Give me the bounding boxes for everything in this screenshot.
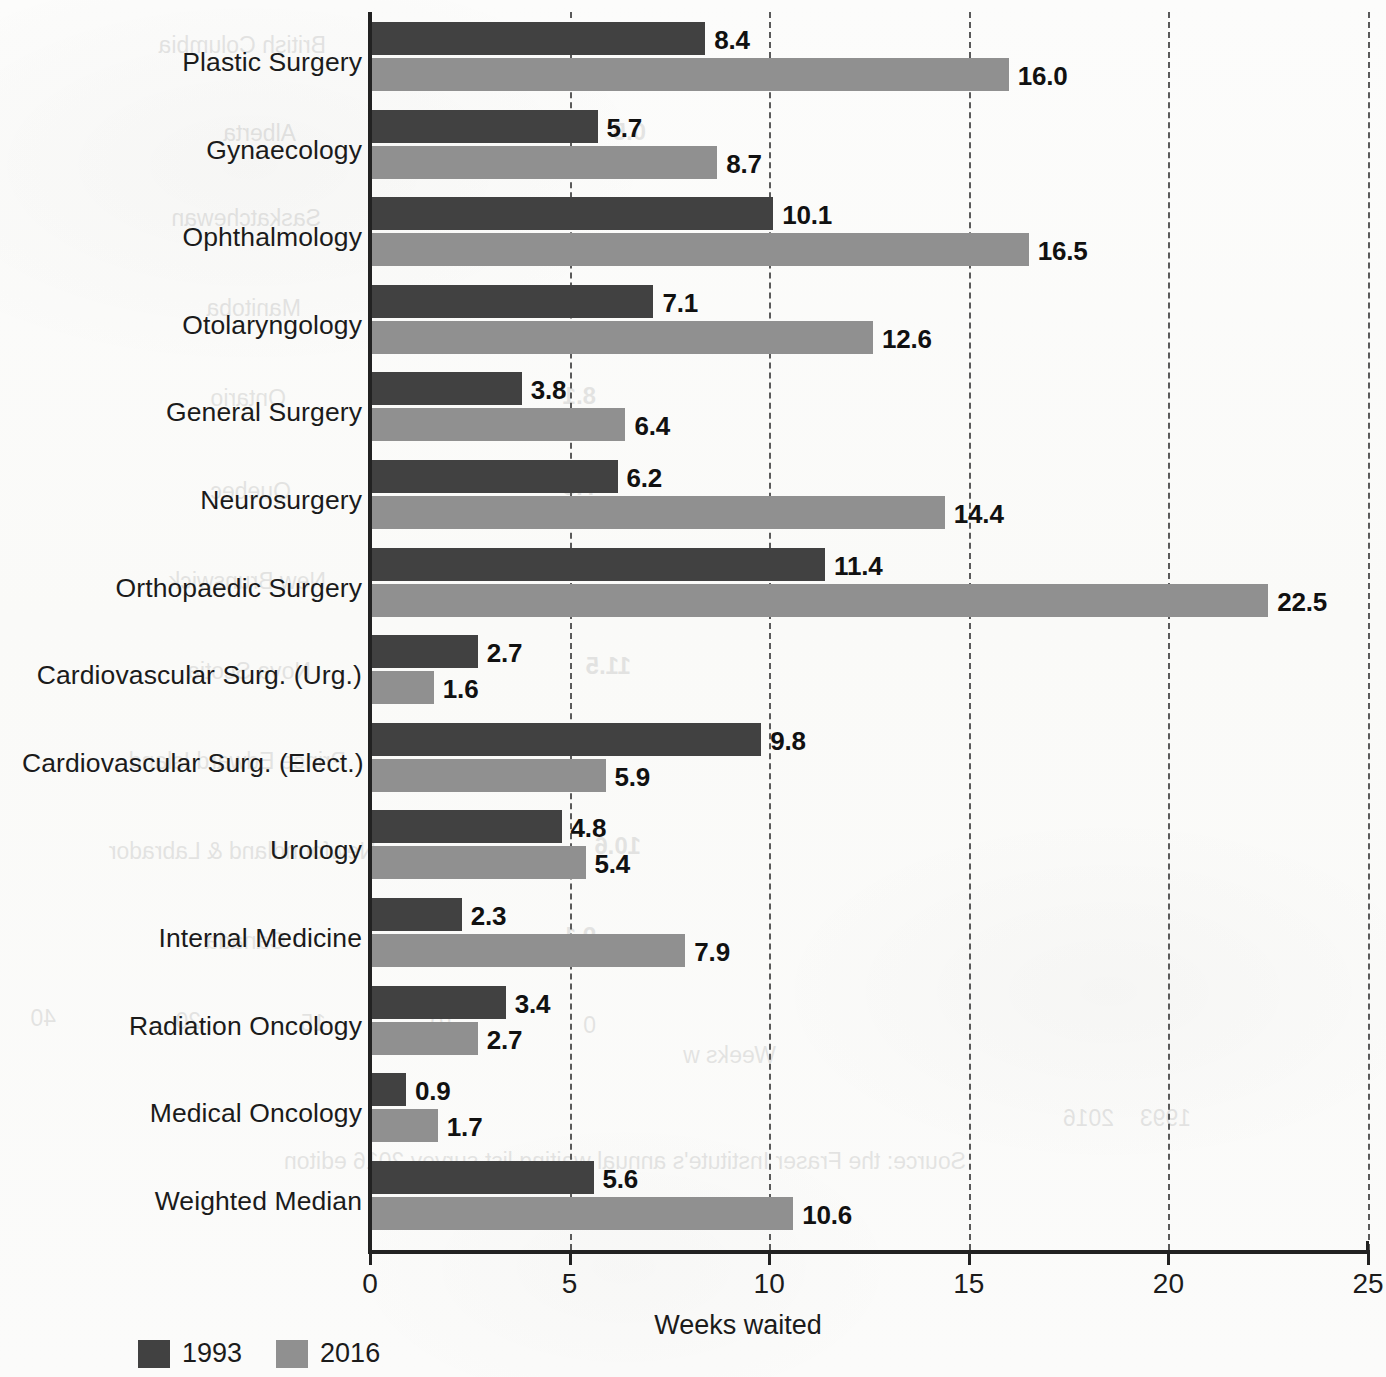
category-label: Weighted Median [22,1186,362,1216]
bar-1993-otolaryngology [370,285,653,318]
category-label: Otolaryngology [22,310,362,340]
category-label: Medical Oncology [22,1098,362,1128]
category-label: Ophthalmology [22,222,362,252]
bar-value-label: 5.7 [607,113,643,144]
category-label: Gynaecology [22,135,362,165]
bar-1993-cardiovascular-surg-elect [370,723,761,756]
gridline-20 [1168,12,1170,1250]
bar-value-label: 5.4 [595,849,631,880]
x-tick-0 [369,1252,372,1265]
bar-value-label: 1.7 [447,1112,483,1143]
bar-value-label: 16.5 [1038,236,1088,267]
bar-value-label: 3.8 [531,375,567,406]
bar-2016-cardiovascular-surg-urg [370,671,434,704]
legend-swatch-2016 [276,1340,308,1368]
category-label: General Surgery [22,397,362,427]
bar-1993-medical-oncology [370,1073,406,1106]
bar-1993-internal-medicine [370,898,462,931]
bar-value-label: 8.4 [714,25,750,56]
x-tick-label: 25 [1323,1268,1386,1300]
bar-1993-general-surgery [370,372,522,405]
bar-2016-weighted-median [370,1197,793,1230]
bar-1993-urology [370,810,562,843]
x-tick-label: 10 [724,1268,814,1300]
category-label: Urology [22,835,362,865]
x-axis-title: Weeks waited [0,1310,1386,1341]
category-label: Neurosurgery [22,485,362,515]
x-tick-label: 15 [924,1268,1014,1300]
bar-2016-internal-medicine [370,934,685,967]
bar-2016-urology [370,846,586,879]
bar-1993-gynaecology [370,110,598,143]
category-label: Cardiovascular Surg. (Elect.) [22,748,362,778]
bar-value-label: 2.3 [471,901,507,932]
bar-value-label: 22.5 [1277,587,1327,618]
x-tick-label: 20 [1123,1268,1213,1300]
legend-label: 2016 [320,1338,380,1369]
bar-value-label: 2.7 [487,638,523,669]
bar-1993-ophthalmology [370,197,773,230]
bar-value-label: 5.6 [603,1164,639,1195]
x-tick-25 [1367,1252,1370,1265]
bar-2016-ophthalmology [370,233,1029,266]
bar-value-label: 3.4 [515,989,551,1020]
bar-value-label: 5.9 [615,762,651,793]
x-tick-label: 0 [325,1268,415,1300]
bar-1993-orthopaedic-surgery [370,548,825,581]
bar-2016-orthopaedic-surgery [370,584,1268,617]
bar-1993-radiation-oncology [370,986,506,1019]
bar-value-label: 11.4 [834,551,882,582]
bar-value-label: 6.2 [627,463,663,494]
bar-value-label: 7.1 [662,288,698,319]
bar-2016-radiation-oncology [370,1022,478,1055]
bar-value-label: 2.7 [487,1025,523,1056]
x-tick-label: 5 [525,1268,615,1300]
plot-area: 8.416.05.78.710.116.57.112.63.86.46.214.… [370,12,1368,1250]
gridline-15 [969,12,971,1250]
gridline-25 [1368,12,1370,1250]
bar-2016-neurosurgery [370,496,945,529]
legend-entry-1993: 1993 [138,1338,242,1369]
bar-2016-otolaryngology [370,321,873,354]
legend-entry-2016: 2016 [276,1338,380,1369]
bar-value-label: 1.6 [443,674,479,705]
y-axis-line [368,12,372,1252]
grouped-bar-chart: 8.416.05.78.710.116.57.112.63.86.46.214.… [0,0,1386,1377]
x-tick-15 [968,1252,971,1265]
bar-value-label: 12.6 [882,324,932,355]
category-label: Plastic Surgery [22,47,362,77]
category-label: Cardiovascular Surg. (Urg.) [22,660,362,690]
x-tick-20 [1167,1252,1170,1265]
bar-value-label: 16.0 [1018,61,1068,92]
x-tick-10 [768,1252,771,1265]
chart-legend: 19932016 [138,1338,380,1369]
legend-swatch-1993 [138,1340,170,1368]
bar-2016-medical-oncology [370,1109,438,1142]
bar-1993-neurosurgery [370,460,618,493]
bar-2016-plastic-surgery [370,58,1009,91]
bar-2016-general-surgery [370,408,625,441]
bar-1993-plastic-surgery [370,22,705,55]
bar-value-label: 6.4 [634,411,670,442]
bar-1993-cardiovascular-surg-urg [370,635,478,668]
bar-value-label: 14.4 [954,499,1004,530]
bar-value-label: 4.8 [571,813,607,844]
category-label: Internal Medicine [22,923,362,953]
bar-value-label: 9.8 [770,726,806,757]
bar-2016-cardiovascular-surg-elect [370,759,606,792]
x-axis-line [368,1250,1370,1254]
legend-label: 1993 [182,1338,242,1369]
category-label: Orthopaedic Surgery [22,573,362,603]
bar-1993-weighted-median [370,1161,594,1194]
x-tick-5 [569,1252,572,1265]
bar-value-label: 0.9 [415,1076,451,1107]
category-label: Radiation Oncology [22,1011,362,1041]
bar-value-label: 10.1 [782,200,832,231]
bar-value-label: 7.9 [694,937,730,968]
bar-value-label: 8.7 [726,149,762,180]
bar-value-label: 10.6 [802,1200,852,1231]
bar-2016-gynaecology [370,146,717,179]
